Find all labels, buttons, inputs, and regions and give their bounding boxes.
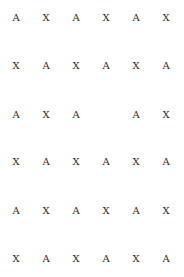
grid-letter: A — [96, 155, 116, 169]
grid-letter: A — [6, 11, 26, 25]
grid-letter: A — [6, 108, 26, 122]
grid-letter: A — [156, 59, 176, 73]
grid-letter: X — [6, 252, 26, 266]
grid-letter: X — [96, 204, 116, 218]
grid-letter: X — [126, 252, 146, 266]
grid-letter: A — [66, 204, 86, 218]
grid-letter: A — [126, 204, 146, 218]
grid-letter: X — [126, 155, 146, 169]
grid-letter: A — [36, 252, 56, 266]
letter-grid: AXAXAXXAXAXAAXAAXXAXAXAAXAXAXXAXAXA — [0, 0, 184, 277]
grid-letter: X — [66, 59, 86, 73]
grid-letter: A — [66, 11, 86, 25]
grid-letter: X — [36, 108, 56, 122]
grid-empty-cell — [96, 108, 116, 122]
grid-letter: X — [6, 155, 26, 169]
grid-letter: A — [126, 108, 146, 122]
grid-letter: A — [6, 204, 26, 218]
grid-letter: X — [66, 252, 86, 266]
grid-letter: X — [156, 11, 176, 25]
grid-letter: X — [96, 11, 116, 25]
grid-letter: X — [156, 108, 176, 122]
grid-letter: A — [36, 155, 56, 169]
grid-letter: A — [96, 59, 116, 73]
grid-letter: X — [156, 204, 176, 218]
grid-letter: A — [96, 252, 116, 266]
grid-letter: A — [156, 252, 176, 266]
grid-letter: X — [6, 59, 26, 73]
grid-letter: A — [36, 59, 56, 73]
grid-letter: A — [66, 108, 86, 122]
grid-letter: X — [36, 11, 56, 25]
grid-letter: X — [36, 204, 56, 218]
grid-letter: X — [66, 155, 86, 169]
grid-letter: A — [156, 155, 176, 169]
grid-letter: A — [126, 11, 146, 25]
grid-letter: X — [126, 59, 146, 73]
